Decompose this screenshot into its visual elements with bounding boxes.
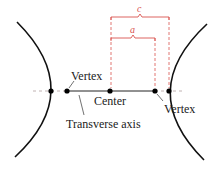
right-focus-point: [166, 88, 171, 93]
right-vertex-point: [152, 88, 157, 93]
a-label: a: [130, 24, 135, 35]
c-label: c: [137, 3, 142, 14]
left-focus-point: [48, 88, 53, 93]
left-vertex-point: [64, 88, 69, 93]
transverse-axis-leader: [79, 95, 84, 115]
center-point: [107, 88, 112, 93]
diagram-svg: c a Vertex Center Vertex Transverse axis: [0, 0, 218, 173]
right-branch-curve: [170, 24, 207, 160]
c-brace: [111, 14, 169, 20]
a-brace: [111, 35, 155, 41]
left-branch-curve: [15, 22, 51, 157]
vertex-right-label: Vertex: [164, 102, 195, 116]
center-label: Center: [94, 94, 126, 108]
vertex-left-label: Vertex: [71, 69, 102, 83]
transverse-axis-label: Transverse axis: [66, 117, 141, 131]
hyperbola-diagram: c a Vertex Center Vertex Transverse axis: [0, 0, 218, 173]
vertex-right-leader: [157, 94, 163, 101]
